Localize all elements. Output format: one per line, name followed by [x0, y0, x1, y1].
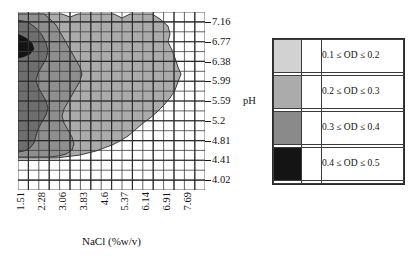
y-tick-mark — [205, 101, 211, 102]
legend-swatch-cell-empty — [274, 180, 302, 183]
y-tick-mark — [205, 42, 211, 43]
legend-swatch-cell — [274, 147, 302, 180]
y-tick-mark — [205, 180, 211, 181]
y-tick-label: 5.99 — [212, 76, 230, 87]
y-axis-title: pH — [243, 96, 256, 107]
legend-row: 0.4 ≤ OD ≤ 0.5 — [274, 147, 404, 180]
legend-swatch-0.4-0.5-icon — [274, 148, 301, 180]
contour-plot-svg — [18, 12, 205, 190]
x-tick-label: 6.91 — [162, 192, 173, 210]
legend-row: 0.3 ≤ OD ≤ 0.4 — [274, 111, 404, 144]
legend-gap-cell — [302, 40, 322, 73]
y-tick-label: 6.77 — [212, 37, 230, 48]
y-tick-label: 4.81 — [212, 136, 230, 147]
x-tick-label: 3.06 — [58, 192, 69, 210]
legend-swatch-0.2-0.3-icon — [274, 76, 301, 108]
legend-row: 0.2 ≤ OD ≤ 0.3 — [274, 75, 404, 108]
legend-swatch-0.3-0.4-icon — [274, 112, 301, 144]
y-tick-label: 4.02 — [212, 175, 230, 186]
y-tick-mark — [205, 121, 211, 122]
y-tick-mark — [205, 22, 211, 23]
y-tick-mark — [205, 141, 211, 142]
legend-swatch-cell — [274, 40, 302, 73]
legend-gap-cell — [302, 111, 322, 144]
legend-label: 0.3 ≤ OD ≤ 0.4 — [322, 111, 404, 144]
contour-figure: 7.16 6.77 6.38 5.99 5.59 5.2 4.81 4.41 4… — [0, 0, 411, 261]
y-tick-mark — [205, 62, 211, 63]
legend-label-empty — [322, 180, 404, 183]
legend-swatch-cell — [274, 75, 302, 108]
y-tick-mark — [205, 160, 211, 161]
y-tick-label: 5.59 — [212, 96, 230, 107]
contour-plot-area — [18, 12, 205, 190]
x-tick-label: 5.37 — [120, 192, 131, 210]
y-tick-label: 4.41 — [212, 155, 230, 166]
x-tick-label: 4.6 — [100, 192, 111, 205]
legend-gap-cell — [302, 75, 322, 108]
x-tick-label: 1.51 — [16, 192, 27, 210]
x-tick-label: 6.14 — [141, 192, 152, 210]
legend-table: 0.1 ≤ OD ≤ 0.2 0.2 ≤ OD ≤ 0.3 — [273, 39, 404, 184]
legend-spacer-row — [274, 180, 404, 183]
x-tick-label: 2.28 — [37, 192, 48, 210]
y-tick-label: 6.38 — [212, 57, 230, 68]
legend-label: 0.2 ≤ OD ≤ 0.3 — [322, 75, 404, 108]
y-tick-label: 5.2 — [212, 116, 225, 127]
legend-label: 0.1 ≤ OD ≤ 0.2 — [322, 40, 404, 73]
legend-swatch-cell — [274, 111, 302, 144]
legend-label: 0.4 ≤ OD ≤ 0.5 — [322, 147, 404, 180]
y-tick-mark — [205, 81, 211, 82]
legend-gap-cell — [302, 180, 322, 183]
x-axis-title: NaCl (%w/v) — [18, 236, 205, 247]
legend-gap-cell — [302, 147, 322, 180]
legend-row: 0.1 ≤ OD ≤ 0.2 — [274, 40, 404, 73]
x-tick-label: 3.83 — [79, 192, 90, 210]
y-tick-label: 7.16 — [212, 17, 230, 28]
legend: 0.1 ≤ OD ≤ 0.2 0.2 ≤ OD ≤ 0.3 — [272, 38, 405, 185]
legend-swatch-0.1-0.2-icon — [274, 40, 301, 72]
x-tick-label: 7.69 — [183, 192, 194, 210]
